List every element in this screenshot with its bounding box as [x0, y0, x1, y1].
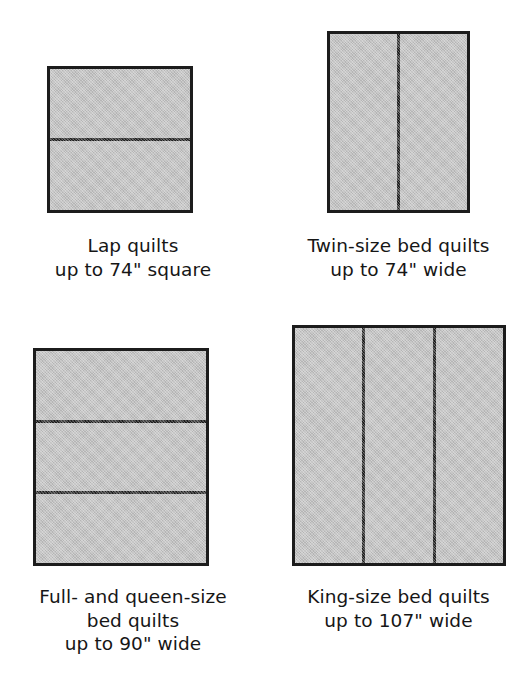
quilt-caption-king-size-bed-quilts: King-size bed quilts up to 107" wide	[266, 585, 531, 632]
caption-line-name-cont: bed quilts	[0, 609, 266, 633]
quilt-diagram-king-size-bed-quilts	[292, 325, 506, 566]
caption-line-name: Twin-size bed quilts	[266, 234, 531, 258]
quilt-cell-king-size-bed-quilts: King-size bed quilts up to 107" wide	[266, 300, 531, 676]
quilt-diagram-twin-size-bed-quilts	[327, 31, 470, 213]
quilt-panel	[330, 34, 397, 210]
quilt-panel	[397, 34, 467, 210]
quilt-size-figure: Lap quilts up to 74" square Twin-size be…	[0, 0, 531, 676]
quilt-diagram-full-and-queen-size-bed-quilts	[33, 348, 209, 566]
quilt-cell-twin-size-bed-quilts: Twin-size bed quilts up to 74" wide	[266, 0, 531, 300]
caption-line-name: Full- and queen-size	[0, 585, 266, 609]
caption-line-name: Lap quilts	[0, 234, 266, 258]
quilt-panel	[362, 328, 432, 563]
quilt-caption-lap-quilts: Lap quilts up to 74" square	[0, 234, 266, 281]
quilt-caption-full-and-queen-size-bed-quilts: Full- and queen-size bed quilts up to 90…	[0, 585, 266, 656]
quilt-panel	[36, 420, 206, 492]
caption-line-measurement: up to 90" wide	[0, 632, 266, 656]
quilt-panel	[36, 351, 206, 420]
caption-line-measurement: up to 74" square	[0, 258, 266, 282]
caption-line-measurement: up to 107" wide	[266, 609, 531, 633]
quilt-panel	[36, 491, 206, 563]
quilt-panel	[295, 328, 362, 563]
quilt-panel	[50, 69, 190, 138]
quilt-panel	[433, 328, 503, 563]
quilt-panel	[50, 138, 190, 210]
quilt-caption-twin-size-bed-quilts: Twin-size bed quilts up to 74" wide	[266, 234, 531, 281]
caption-line-measurement: up to 74" wide	[266, 258, 531, 282]
quilt-cell-full-and-queen-size-bed-quilts: Full- and queen-size bed quilts up to 90…	[0, 300, 266, 676]
quilt-cell-lap-quilts: Lap quilts up to 74" square	[0, 0, 266, 300]
caption-line-name: King-size bed quilts	[266, 585, 531, 609]
quilt-diagram-lap-quilts	[47, 66, 193, 213]
